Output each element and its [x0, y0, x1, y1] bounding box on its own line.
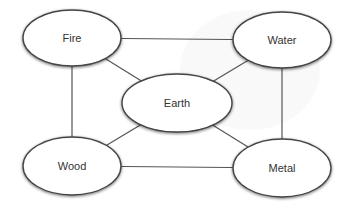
- node-label: Metal: [269, 162, 296, 174]
- node-label: Wood: [58, 160, 87, 172]
- node-label: Water: [268, 34, 297, 46]
- node-label: Earth: [164, 97, 190, 109]
- node-metal: Metal: [233, 139, 331, 197]
- node-earth: Earth: [122, 74, 232, 132]
- five-elements-diagram: FireWaterEarthWoodMetal: [0, 0, 351, 211]
- node-fire: Fire: [23, 10, 121, 66]
- node-water: Water: [233, 12, 331, 68]
- node-wood: Wood: [23, 137, 121, 195]
- node-label: Fire: [63, 32, 82, 44]
